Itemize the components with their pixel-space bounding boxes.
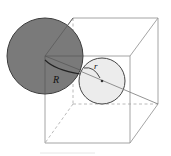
small-sphere-center [101, 80, 104, 83]
bottom-left-depth-edge [45, 104, 73, 143]
bottom-right-depth-edge [130, 104, 158, 143]
large-radius-label: R [52, 74, 59, 85]
small-radius-label: r [94, 61, 98, 71]
top-right-depth-edge [130, 18, 158, 56]
cube-spheres-diagram: R r [0, 0, 171, 156]
